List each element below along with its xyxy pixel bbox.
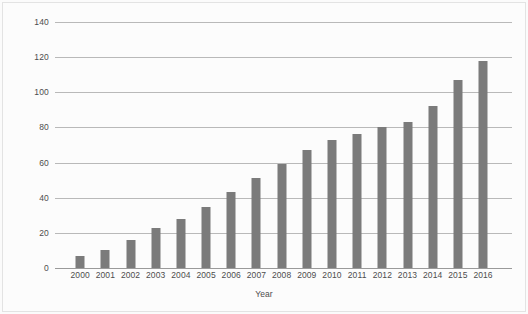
bar-2002 — [126, 240, 135, 268]
bar-2004 — [176, 219, 185, 268]
y-axis-tick-label: 140 — [15, 17, 49, 27]
y-axis-tick-label: 40 — [15, 193, 49, 203]
bar-2011 — [353, 134, 362, 268]
y-axis-tick-label: 120 — [15, 52, 49, 62]
bar-2003 — [151, 228, 160, 268]
bar-2001 — [101, 250, 110, 268]
bar-2009 — [302, 150, 311, 268]
bar-2007 — [252, 178, 261, 268]
bar-2010 — [327, 140, 336, 268]
x-axis-tick-label: 2016 — [463, 270, 503, 280]
y-axis-tick-label: 20 — [15, 228, 49, 238]
y-axis-tick-label: 0 — [15, 263, 49, 273]
y-axis-tick-label: 60 — [15, 158, 49, 168]
x-axis-tick-labels: 2000200120022003200420052006200720082009… — [55, 270, 512, 286]
bars-group — [55, 22, 512, 268]
y-axis-tick-labels: 020406080100120140 — [13, 22, 49, 268]
bar-2012 — [378, 127, 387, 268]
bar-2014 — [428, 106, 437, 268]
y-axis-tick-label: 100 — [15, 87, 49, 97]
plot-area — [55, 22, 512, 268]
x-axis-title: Year — [0, 289, 528, 299]
bar-2016 — [479, 61, 488, 268]
bar-2015 — [453, 80, 462, 268]
bar-chart-figure: Passenger numbers (millions) 02040608010… — [0, 0, 528, 314]
bar-2013 — [403, 122, 412, 268]
bar-2006 — [227, 192, 236, 268]
bar-2008 — [277, 164, 286, 268]
bar-2000 — [76, 256, 85, 268]
x-axis-line — [55, 268, 512, 269]
bar-2005 — [202, 207, 211, 269]
y-axis-tick-label: 80 — [15, 122, 49, 132]
